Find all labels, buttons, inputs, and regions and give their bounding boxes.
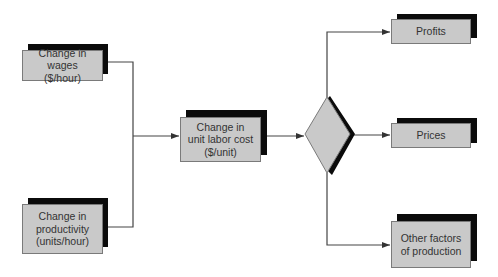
box-label: Profits — [391, 19, 471, 44]
decision-diamond-face — [305, 97, 350, 173]
box-label: Other factors of production — [391, 221, 471, 268]
box-label: Change in wages ($/hour) — [22, 50, 103, 81]
decision-diamond — [305, 96, 355, 175]
edge-decision-to-other-factors — [327, 173, 390, 245]
box-label: Change in unit labor cost ($/unit) — [180, 117, 261, 162]
edge-decision-to-profits — [327, 32, 390, 97]
flowchart-diagram: Change in wages ($/hour) Change in produ… — [0, 0, 498, 277]
box-label: Prices — [391, 123, 471, 148]
box-label: Change in productivity (units/hour) — [22, 204, 103, 254]
